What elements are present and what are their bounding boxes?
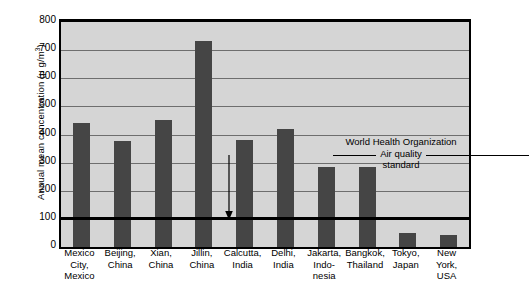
who-annotation-line-2-wrap: Air quality	[333, 148, 469, 160]
y-axis-tick-label: 500	[24, 98, 56, 109]
y-axis-tick-label: 700	[24, 42, 56, 53]
bar	[73, 123, 90, 247]
who-annotation-line-3: standard	[383, 159, 420, 170]
bar	[318, 167, 335, 247]
y-axis-tick-label: 100	[24, 210, 56, 221]
x-axis-tick-label: NewYork,USA	[419, 247, 475, 282]
who-annotation-text: World Health Organization Air quality st…	[333, 136, 469, 171]
who-annotation-line-2: Air quality	[376, 148, 426, 160]
who-annotation-line-1: World Health Organization	[345, 136, 456, 147]
x-axis-tick-label-line: New	[419, 247, 475, 259]
y-axis-tick-label: 600	[24, 70, 56, 81]
y-axis-tick-label: 300	[24, 154, 56, 165]
bar	[359, 167, 376, 247]
x-axis-tick-labels: MexicoCity,MexicoBeijing,ChinaXian,China…	[59, 247, 469, 293]
plot-inner: World Health Organization Air quality st…	[61, 22, 469, 247]
bar	[155, 120, 172, 247]
who-standard-line	[61, 217, 469, 220]
bar	[236, 140, 253, 247]
y-axis-tick-label: 800	[24, 14, 56, 25]
gridline	[61, 106, 469, 107]
bar	[399, 233, 416, 247]
x-axis-tick-label-line: York,	[419, 259, 475, 271]
y-axis-tick-label: 200	[24, 182, 56, 193]
gridline	[61, 50, 469, 51]
x-axis-tick-label-line: USA	[419, 270, 475, 282]
gridline	[61, 78, 469, 79]
plot-area: World Health Organization Air quality st…	[59, 19, 471, 249]
y-axis-tick-label: 400	[24, 126, 56, 137]
x-axis-tick-label-line: Mexico	[51, 270, 107, 282]
bar	[440, 235, 457, 247]
bar	[195, 41, 212, 247]
bar	[114, 141, 131, 247]
x-axis-tick-label-line: nesia	[296, 270, 352, 282]
bar	[277, 129, 294, 247]
